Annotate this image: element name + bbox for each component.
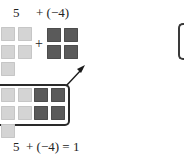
negative-tile bbox=[34, 88, 48, 102]
bottom-equation: 5 + (−4) = 1 bbox=[13, 140, 79, 154]
remaining-positive-tile bbox=[1, 124, 15, 138]
partial-box-right bbox=[178, 23, 184, 60]
positive-tile bbox=[1, 106, 15, 120]
negative-tile bbox=[51, 88, 65, 102]
positive-tile bbox=[1, 88, 15, 102]
negative-tile bbox=[34, 106, 48, 120]
positive-tile bbox=[18, 106, 32, 120]
negative-tile bbox=[51, 106, 65, 120]
positive-tile bbox=[18, 88, 32, 102]
arrow-icon bbox=[0, 0, 184, 155]
